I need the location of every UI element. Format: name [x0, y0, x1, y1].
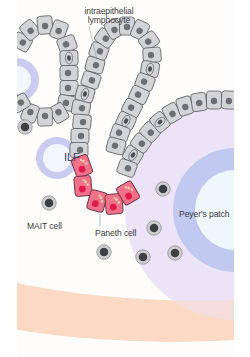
label-mait-cell: MAIT cell [27, 222, 62, 231]
label-intraepithelial-lymphocyte: intraepithelial lymphocyte [74, 7, 144, 25]
label-peyers-patch: Peyer's patch [179, 210, 230, 219]
diagram-panel: intraepithelial lymphocyte ILF MAIT cell… [17, 0, 234, 357]
label-paneth-cell: Paneth cell [95, 229, 136, 238]
label-iel-line2: lymphocyte [74, 16, 144, 25]
intestine-diagram [17, 0, 234, 357]
label-ilf: ILF [64, 153, 80, 162]
